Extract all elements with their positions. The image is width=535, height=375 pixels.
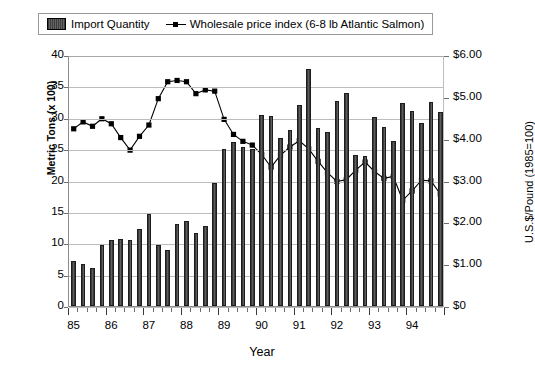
y-axis-left-tick	[64, 150, 68, 151]
y-axis-right-tick-label: $5.00	[453, 90, 482, 102]
line-marker	[156, 96, 161, 101]
x-axis-major-tick	[369, 308, 370, 315]
bar	[372, 117, 377, 307]
gridline	[69, 276, 443, 277]
bar	[184, 221, 189, 306]
bar	[419, 123, 424, 306]
bar	[100, 245, 105, 306]
x-axis-minor-tick	[312, 308, 313, 312]
x-axis-minor-tick	[209, 308, 210, 312]
x-axis-minor-tick	[303, 308, 304, 312]
x-axis-tick-label: 93	[368, 319, 381, 331]
x-axis-minor-tick	[96, 308, 97, 312]
bar	[156, 245, 161, 306]
line-marker	[175, 78, 180, 83]
gridline	[69, 182, 443, 183]
x-axis-minor-tick	[228, 308, 229, 312]
x-axis-minor-tick	[237, 308, 238, 312]
x-axis-minor-tick	[435, 308, 436, 312]
bar	[175, 224, 180, 306]
bar	[231, 142, 236, 306]
bar	[203, 226, 208, 306]
y-axis-left-tick	[64, 244, 68, 245]
x-axis-minor-tick	[124, 308, 125, 312]
x-axis-major-tick	[68, 308, 69, 315]
x-axis-major-tick	[331, 308, 332, 315]
bar	[194, 233, 199, 306]
x-axis-major-tick	[181, 308, 182, 315]
x-axis-minor-tick	[87, 308, 88, 312]
y-axis-right-tick-label: $6.00	[453, 48, 482, 60]
x-axis-minor-tick	[265, 308, 266, 312]
x-axis-minor-tick	[341, 308, 342, 312]
bar	[278, 138, 283, 306]
x-axis-minor-tick	[200, 308, 201, 312]
gridline	[69, 150, 443, 151]
bar	[400, 103, 405, 306]
x-axis-major-tick	[106, 308, 107, 315]
x-axis-tick-label: 85	[67, 319, 80, 331]
bar	[250, 149, 255, 306]
x-axis-minor-tick	[153, 308, 154, 312]
x-axis-minor-tick	[322, 308, 323, 312]
x-axis-minor-tick	[416, 308, 417, 312]
line-marker	[193, 91, 198, 96]
y-axis-right-tick-label: $4.00	[453, 132, 482, 144]
gridline	[69, 87, 443, 88]
x-axis-minor-tick	[190, 308, 191, 312]
bar	[128, 240, 133, 307]
y-axis-left-tick-label: 30	[36, 111, 64, 123]
y-axis-left-tick-label: 15	[36, 205, 64, 217]
gridline	[69, 56, 443, 57]
bar	[353, 155, 358, 306]
y-axis-right-tick-label: $2.00	[453, 215, 482, 227]
x-axis-major-tick	[444, 308, 445, 315]
bar	[391, 141, 396, 306]
y-axis-left-tick-label: 5	[36, 268, 64, 280]
bar	[335, 101, 340, 306]
line-marker	[137, 134, 142, 139]
x-axis-minor-tick	[171, 308, 172, 312]
gridline	[69, 119, 443, 120]
x-axis-major-tick	[294, 308, 295, 315]
bar	[222, 149, 227, 307]
x-axis-tick-label: 88	[180, 319, 193, 331]
bar	[118, 239, 123, 306]
y-axis-right-tick	[444, 98, 449, 99]
x-axis-minor-tick	[247, 308, 248, 312]
y-axis-right-tick-label: $0	[453, 299, 466, 311]
x-axis-major-tick	[143, 308, 144, 315]
y-axis-left-tick-label: 35	[36, 79, 64, 91]
legend-entry-import-quantity: Import Quantity	[47, 18, 150, 30]
line-marker	[146, 122, 151, 127]
bar	[306, 69, 311, 306]
y-axis-left-tick-label: 20	[36, 174, 64, 186]
y-axis-right-tick	[444, 223, 449, 224]
line-marker	[90, 124, 95, 129]
x-axis-minor-tick	[77, 308, 78, 312]
bar	[288, 130, 293, 306]
legend-label-import-quantity: Import Quantity	[71, 18, 150, 30]
x-axis-tick-label: 89	[218, 319, 231, 331]
x-axis-minor-tick	[378, 308, 379, 312]
line-marker	[231, 132, 236, 137]
x-axis-major-tick	[218, 308, 219, 315]
x-axis-tick-label: 94	[406, 319, 419, 331]
y-axis-left-title: Metric Tons (x 100)	[45, 81, 57, 175]
y-axis-left-tick-label: 40	[36, 48, 64, 60]
bar	[438, 112, 443, 306]
bar	[344, 93, 349, 306]
bar	[90, 268, 95, 306]
line-marker	[165, 79, 170, 84]
bar	[165, 250, 170, 306]
x-axis-tick-label: 87	[142, 319, 155, 331]
bar	[325, 132, 330, 306]
line-marker-swatch-icon	[166, 19, 186, 29]
y-axis-right-tick-label: $1.00	[453, 257, 482, 269]
y-axis-left-tick	[64, 87, 68, 88]
y-axis-right-title: U.S.$/Pound (1985=100)	[523, 121, 535, 243]
x-axis-tick-label: 86	[105, 319, 118, 331]
x-axis-minor-tick	[275, 308, 276, 312]
x-axis-minor-tick	[388, 308, 389, 312]
line-marker	[71, 126, 76, 131]
